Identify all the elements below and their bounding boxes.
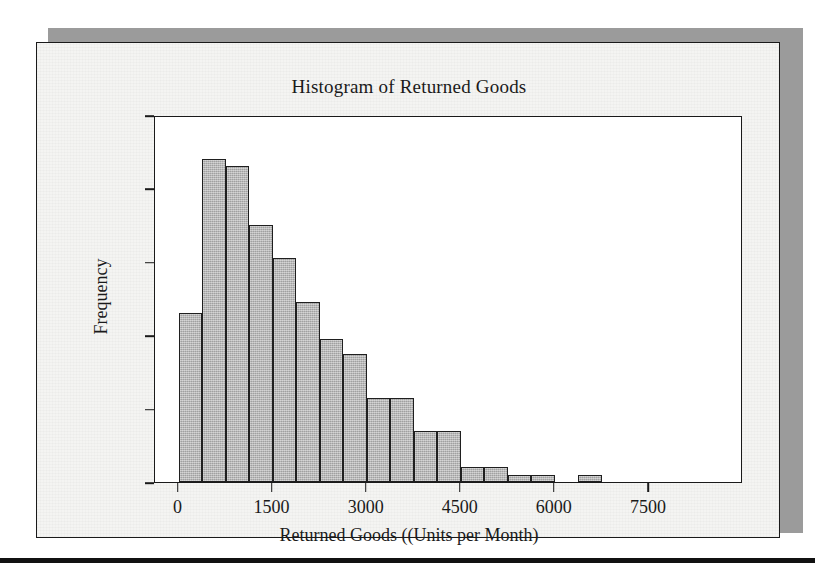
y-axis-title: Frequency (91, 241, 112, 351)
histogram-bar (461, 467, 485, 482)
chart-title: Histogram of Returned Goods (37, 76, 781, 98)
histogram-bar (202, 159, 226, 482)
histogram-bar (273, 258, 297, 482)
histogram-bar (296, 302, 320, 482)
histogram-bar (484, 467, 508, 482)
plot-area (154, 116, 742, 483)
y-axis-tick-mark (145, 335, 154, 337)
y-axis-tick-mark (145, 482, 154, 484)
x-axis-tick-label: 1500 (254, 497, 290, 518)
x-axis-tick-mark (365, 483, 367, 492)
y-axis-tick-mark (145, 409, 154, 411)
x-axis-tick-mark (459, 483, 461, 492)
x-axis-tick-label: 6000 (536, 497, 572, 518)
x-axis-title: Returned Goods ((Units per Month) (37, 525, 781, 546)
histogram-bar (414, 431, 438, 482)
histogram-bar (367, 398, 391, 482)
x-axis-tick-mark (271, 483, 273, 492)
histogram-bars (155, 117, 741, 482)
histogram-bar (437, 431, 461, 482)
y-axis-tick-mark (145, 189, 154, 191)
x-axis-tick-mark (553, 483, 555, 492)
y-axis-tick-mark (145, 262, 154, 264)
histogram-bar (249, 225, 273, 482)
x-axis-tick-mark (647, 483, 649, 492)
x-axis-tick-label: 3000 (348, 497, 384, 518)
x-axis-tick-label: 4500 (442, 497, 478, 518)
x-axis-tick-mark (177, 483, 179, 492)
page-canvas: Histogram of Returned Goods 01020304050 … (0, 0, 815, 585)
x-axis-tick-label: 0 (173, 497, 182, 518)
histogram-bar (531, 475, 555, 482)
x-axis-tick-label: 7500 (630, 497, 666, 518)
histogram-bar (179, 313, 203, 482)
histogram-bar (390, 398, 414, 482)
histogram-bar (226, 166, 250, 482)
histogram-bar (343, 354, 367, 482)
histogram-bar (320, 339, 344, 482)
page-divider-rule (0, 558, 815, 563)
y-axis-tick-mark (145, 115, 154, 117)
figure-card: Histogram of Returned Goods 01020304050 … (36, 42, 780, 538)
histogram-bar (578, 475, 602, 482)
histogram-bar (508, 475, 532, 482)
